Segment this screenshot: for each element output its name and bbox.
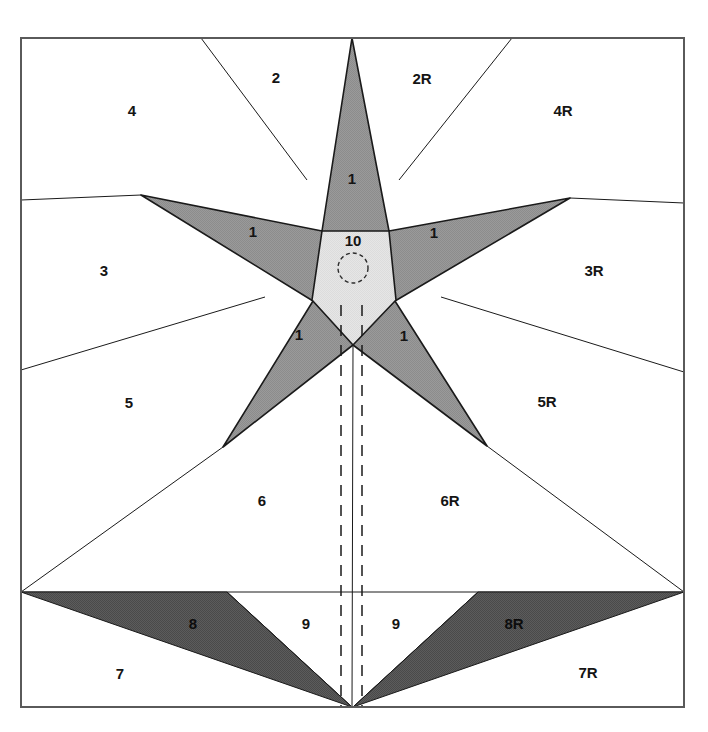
label-region-2: 2 (272, 69, 280, 86)
label-region-10: 10 (345, 232, 362, 249)
label-region-1-upper-left: 1 (249, 223, 257, 240)
label-region-5: 5 (125, 394, 133, 411)
label-region-7: 7 (116, 665, 124, 682)
label-region-2R: 2R (412, 70, 431, 87)
label-region-3: 3 (100, 262, 108, 279)
label-region-4R: 4R (553, 102, 572, 119)
label-region-6: 6 (258, 492, 266, 509)
label-region-9-right: 9 (392, 615, 400, 632)
label-region-6R: 6R (440, 492, 459, 509)
label-region-1-top: 1 (348, 170, 356, 187)
label-region-5R: 5R (537, 393, 556, 410)
page-root: 1 1 1 1 1 10 2 2R 4 4R 3 3R 5 5R 6 6R 7 … (0, 0, 708, 732)
label-region-7R: 7R (578, 664, 597, 681)
label-region-3R: 3R (584, 262, 603, 279)
label-region-4: 4 (128, 102, 137, 119)
label-region-1-lower-right: 1 (400, 327, 408, 344)
label-region-9-left: 9 (302, 615, 310, 632)
label-region-1-lower-left: 1 (295, 326, 303, 343)
label-region-8R: 8R (504, 615, 523, 632)
label-region-1-upper-right: 1 (430, 224, 438, 241)
star-region-diagram: 1 1 1 1 1 10 2 2R 4 4R 3 3R 5 5R 6 6R 7 … (0, 0, 708, 732)
label-region-8: 8 (189, 615, 197, 632)
